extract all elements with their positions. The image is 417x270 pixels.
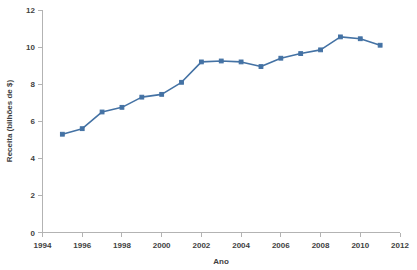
y-axis-title: Receita (bilhões de $) bbox=[5, 80, 14, 163]
y-tick-label: 6 bbox=[31, 117, 36, 126]
data-point-markers bbox=[60, 35, 382, 136]
y-tick-label: 0 bbox=[31, 229, 36, 238]
y-tick-label: 10 bbox=[26, 43, 35, 52]
data-point-marker bbox=[299, 52, 303, 56]
y-tick-label: 2 bbox=[31, 191, 36, 200]
data-point-marker bbox=[80, 127, 84, 131]
x-tick-label: 2004 bbox=[232, 241, 250, 250]
data-point-marker bbox=[180, 80, 184, 84]
x-tick-label: 2010 bbox=[351, 241, 369, 250]
data-point-marker bbox=[120, 105, 124, 109]
chart-container: 024681012 199419961998200020022004200620… bbox=[0, 0, 417, 270]
x-tick-label: 1994 bbox=[34, 241, 52, 250]
x-tick-label: 1998 bbox=[113, 241, 131, 250]
x-tick-label: 2008 bbox=[312, 241, 330, 250]
data-point-marker bbox=[199, 60, 203, 64]
y-tick-label: 4 bbox=[31, 154, 36, 163]
y-axis-ticks bbox=[38, 10, 43, 233]
x-tick-label: 2012 bbox=[391, 241, 409, 250]
x-axis-title: Ano bbox=[213, 257, 229, 266]
data-series-line bbox=[62, 37, 380, 134]
x-tick-label: 2002 bbox=[192, 241, 210, 250]
y-axis-tick-labels: 024681012 bbox=[26, 6, 35, 238]
x-axis-ticks bbox=[43, 233, 401, 238]
data-point-marker bbox=[239, 60, 243, 64]
data-point-marker bbox=[279, 56, 283, 60]
data-point-marker bbox=[100, 110, 104, 114]
data-point-marker bbox=[140, 95, 144, 99]
data-point-marker bbox=[339, 35, 343, 39]
x-tick-label: 2000 bbox=[153, 241, 171, 250]
data-point-marker bbox=[160, 92, 164, 96]
x-tick-label: 1996 bbox=[73, 241, 91, 250]
y-tick-label: 8 bbox=[31, 80, 36, 89]
line-chart-plot: 024681012 199419961998200020022004200620… bbox=[0, 0, 417, 270]
data-point-marker bbox=[358, 37, 362, 41]
x-tick-label: 2006 bbox=[272, 241, 290, 250]
data-point-marker bbox=[378, 43, 382, 47]
data-point-marker bbox=[219, 59, 223, 63]
data-point-marker bbox=[259, 65, 263, 69]
data-point-marker bbox=[60, 132, 64, 136]
y-tick-label: 12 bbox=[26, 6, 35, 15]
data-point-marker bbox=[319, 48, 323, 52]
x-axis-tick-labels: 1994199619982000200220042006200820102012 bbox=[34, 241, 410, 250]
